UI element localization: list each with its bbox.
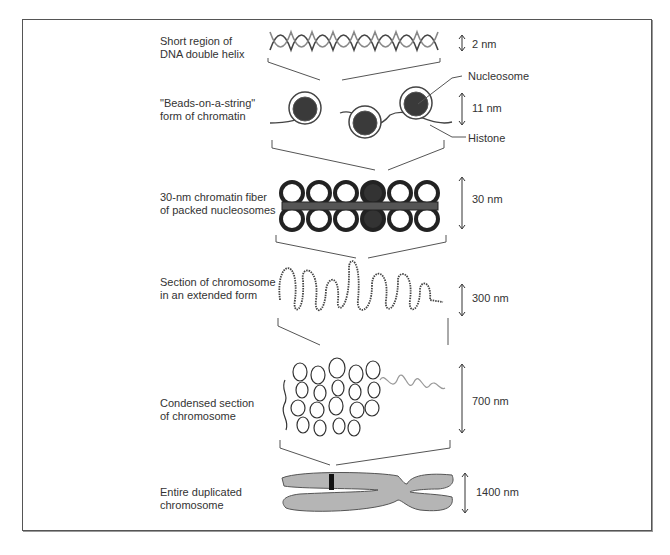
chromosome-band	[329, 474, 334, 490]
extended-fiber	[279, 261, 443, 310]
scale-arrows	[459, 35, 468, 513]
condensed-loops	[283, 358, 380, 436]
dna-helix	[270, 32, 438, 50]
chromosome-body	[282, 473, 453, 512]
chromatin-diagram	[0, 0, 670, 555]
nucleosome-beads	[289, 87, 432, 138]
